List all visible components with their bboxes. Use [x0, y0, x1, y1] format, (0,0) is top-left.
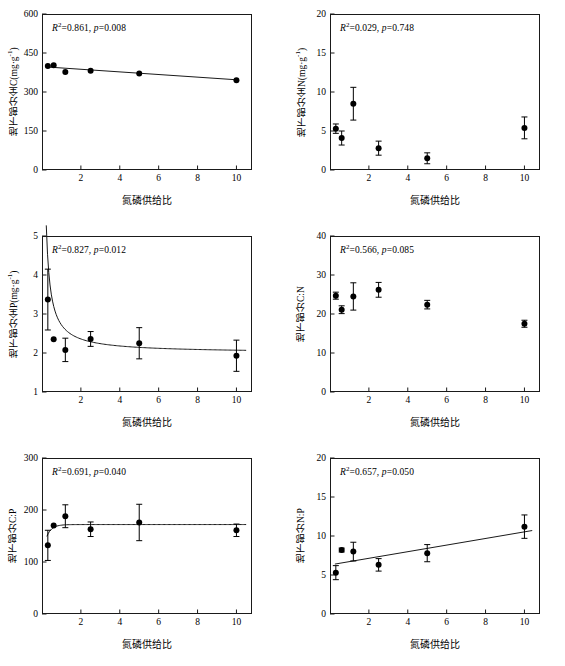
panel-cp-xtick: 4	[117, 617, 122, 627]
panel-cp-plot: R2=0.691, p=0.040 0100200300246810	[42, 458, 252, 614]
panel-belowground-n: 地下部分全N(mg·g-1) R2=0.029, p=0.748 0510152…	[282, 0, 565, 222]
data-point	[45, 297, 51, 303]
panel-c-ytick: 300	[8, 87, 38, 97]
data-point	[88, 68, 94, 74]
panel-belowground-cp: 地下部分C:P R2=0.691, p=0.040 01002003002468…	[0, 444, 282, 666]
data-point	[51, 62, 57, 68]
panel-cp-ytick: 200	[8, 505, 38, 515]
panel-cn-ytick: 10	[296, 348, 326, 358]
data-point	[333, 570, 339, 576]
panel-n-ytick: 15	[296, 48, 326, 58]
panel-n-xtick: 10	[520, 173, 530, 183]
data-point	[350, 101, 356, 107]
data-point	[62, 347, 68, 353]
panel-p-xtick: 10	[232, 395, 242, 405]
panel-cp-xlabel: 氮磷供给比	[42, 636, 252, 651]
data-point	[136, 519, 142, 525]
panel-p-ytick: 2	[8, 348, 38, 358]
panel-n-ytick: 0	[296, 165, 326, 175]
panel-np-ytick: 0	[296, 609, 326, 619]
panel-np-xtick: 10	[520, 617, 530, 627]
panel-cn-xtick: 4	[405, 395, 410, 405]
panel-p-xlabel: 氮磷供给比	[42, 414, 252, 429]
panel-cp-ylabel: 地下部分C:P	[6, 458, 20, 614]
data-point	[424, 550, 430, 556]
figure-grid: 地下部分全C(mg·g-1) R2=0.861, p=0.008 0150300…	[0, 0, 565, 666]
data-point	[62, 513, 68, 519]
panel-p-xtick: 4	[117, 395, 122, 405]
panel-cn-ytick: 20	[296, 309, 326, 319]
panel-cn-xtick: 2	[367, 395, 372, 405]
panel-c-xtick: 6	[156, 173, 161, 183]
data-point	[136, 71, 142, 77]
panel-np-ytick: 10	[296, 531, 326, 541]
panel-p-ytick: 3	[8, 309, 38, 319]
data-point	[424, 302, 430, 308]
data-point	[233, 77, 239, 83]
data-point	[62, 69, 68, 75]
panel-c-plot: R2=0.861, p=0.008 0150300450600246810	[42, 14, 252, 170]
data-point	[339, 307, 345, 313]
data-point	[376, 287, 382, 293]
panel-p-ytick: 1	[8, 387, 38, 397]
panel-c-xtick: 2	[79, 173, 84, 183]
panel-p-ytick: 4	[8, 270, 38, 280]
panel-cn-xtick: 6	[444, 395, 449, 405]
panel-cn-canvas	[330, 236, 540, 392]
panel-cp-ytick: 300	[8, 453, 38, 463]
panel-cp-xtick: 2	[79, 617, 84, 627]
panel-p-ytick: 5	[8, 231, 38, 241]
data-point	[339, 547, 345, 553]
data-point	[521, 125, 527, 131]
data-point	[51, 336, 57, 342]
panel-c-xtick: 10	[232, 173, 242, 183]
panel-cn-ytick: 40	[296, 231, 326, 241]
data-point	[333, 293, 339, 299]
panel-c-xlabel: 氮磷供给比	[42, 192, 252, 207]
data-point	[350, 549, 356, 555]
panel-n-ytick: 20	[296, 9, 326, 19]
data-point	[376, 145, 382, 151]
panel-c-ytick: 150	[8, 126, 38, 136]
panel-belowground-np: 地下部分N:P R2=0.657, p=0.050 05101520246810…	[282, 444, 565, 666]
data-point	[45, 63, 51, 69]
panel-np-ytick: 20	[296, 453, 326, 463]
panel-n-xtick: 6	[444, 173, 449, 183]
data-point	[233, 353, 239, 359]
panel-np-xtick: 6	[444, 617, 449, 627]
panel-c-ytick: 600	[8, 9, 38, 19]
panel-cn-xtick: 8	[483, 395, 488, 405]
panel-cp-canvas	[42, 458, 252, 614]
panel-cp-xtick: 10	[232, 617, 242, 627]
panel-belowground-p: 地下部分全P(mg·g-1) R2=0.827, p=0.012 1234524…	[0, 222, 282, 444]
panel-c-ytick: 450	[8, 48, 38, 58]
panel-p-xtick: 8	[195, 395, 200, 405]
panel-p-canvas	[42, 236, 252, 392]
panel-np-ytick: 15	[296, 492, 326, 502]
data-point	[333, 126, 339, 132]
data-point	[88, 526, 94, 532]
panel-n-xlabel: 氮磷供给比	[330, 192, 540, 207]
panel-np-xtick: 4	[405, 617, 410, 627]
panel-n-xtick: 8	[483, 173, 488, 183]
panel-cp-xtick: 6	[156, 617, 161, 627]
panel-np-xtick: 8	[483, 617, 488, 627]
panel-np-xtick: 2	[367, 617, 372, 627]
panel-c-xtick: 8	[195, 173, 200, 183]
data-point	[136, 340, 142, 346]
panel-c-ytick: 0	[8, 165, 38, 175]
panel-cn-xtick: 10	[520, 395, 530, 405]
data-point	[350, 293, 356, 299]
data-point	[521, 524, 527, 530]
data-point	[521, 321, 527, 327]
panel-p-xtick: 2	[79, 395, 84, 405]
data-point	[233, 527, 239, 533]
panel-p-plot: R2=0.827, p=0.012 12345246810	[42, 236, 252, 392]
data-point	[45, 542, 51, 548]
panel-belowground-c: 地下部分全C(mg·g-1) R2=0.861, p=0.008 0150300…	[0, 0, 282, 222]
panel-n-plot: R2=0.029, p=0.748 05101520246810	[330, 14, 540, 170]
panel-cn-ytick: 0	[296, 387, 326, 397]
panel-cn-ytick: 30	[296, 270, 326, 280]
panel-n-canvas	[330, 14, 540, 170]
panel-cn-xlabel: 氮磷供给比	[330, 414, 540, 429]
